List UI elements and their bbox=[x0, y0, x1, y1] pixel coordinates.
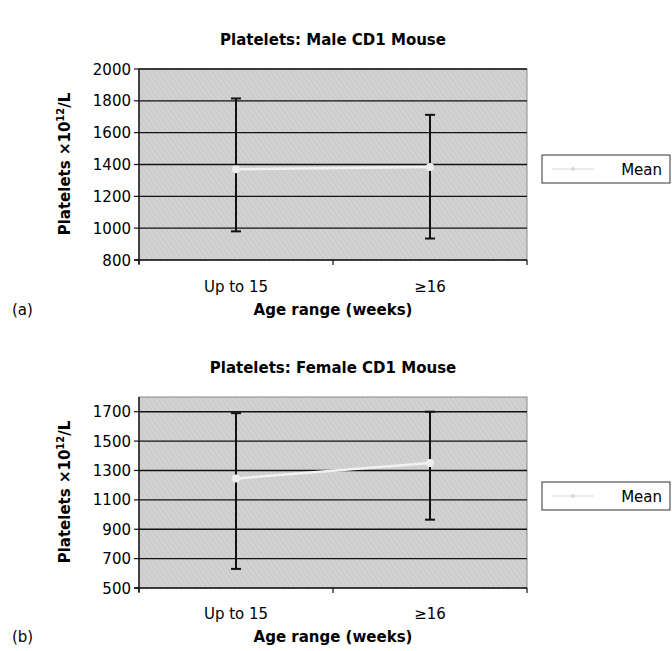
y-axis-title-exponent: 12 bbox=[55, 436, 66, 450]
y-tick-label: 1200 bbox=[93, 188, 131, 206]
legend-label: Mean bbox=[621, 488, 662, 506]
chart-panel-male: Platelets: Male CD1 Mouse800100012001400… bbox=[12, 31, 670, 319]
x-tick-label: ≥16 bbox=[414, 605, 446, 623]
y-axis-title-unit: /L bbox=[56, 420, 74, 435]
panel-label: (b) bbox=[12, 628, 33, 646]
x-axis-title: Age range (weeks) bbox=[254, 628, 413, 646]
mean-marker bbox=[426, 459, 434, 467]
y-tick-label: 1500 bbox=[93, 433, 131, 451]
mean-marker bbox=[426, 163, 434, 171]
y-tick-label: 500 bbox=[102, 580, 131, 598]
mean-marker bbox=[232, 475, 240, 483]
y-tick-label: 1100 bbox=[93, 491, 131, 509]
y-axis-title: Platelets ×1012/L bbox=[55, 92, 74, 235]
y-tick-label: 900 bbox=[102, 521, 131, 539]
y-tick-label: 800 bbox=[102, 252, 131, 270]
y-axis-title-exponent: 12 bbox=[55, 108, 66, 122]
chart-title: Platelets: Female CD1 Mouse bbox=[210, 359, 456, 377]
chart-panel-female: Platelets: Female CD1 Mouse5007009001100… bbox=[12, 359, 670, 646]
x-tick-label: Up to 15 bbox=[204, 278, 268, 296]
y-axis-title-main: Platelets ×10 bbox=[56, 450, 74, 564]
x-axis-title: Age range (weeks) bbox=[254, 301, 413, 319]
legend-marker-swatch bbox=[571, 167, 575, 171]
x-tick-label: Up to 15 bbox=[204, 605, 268, 623]
y-tick-label: 1000 bbox=[93, 220, 131, 238]
y-axis-title: Platelets ×1012/L bbox=[55, 420, 74, 563]
legend-label: Mean bbox=[621, 161, 662, 179]
y-tick-label: 700 bbox=[102, 550, 131, 568]
y-tick-label: 1400 bbox=[93, 156, 131, 174]
x-tick-label: ≥16 bbox=[414, 278, 446, 296]
y-tick-label: 2000 bbox=[93, 61, 131, 79]
y-tick-label: 1700 bbox=[93, 403, 131, 421]
y-tick-label: 1600 bbox=[93, 124, 131, 142]
y-tick-label: 1800 bbox=[93, 92, 131, 110]
chart-title: Platelets: Male CD1 Mouse bbox=[220, 31, 446, 49]
figure: Platelets: Male CD1 Mouse800100012001400… bbox=[0, 0, 672, 651]
y-tick-label: 1300 bbox=[93, 462, 131, 480]
y-axis-title-main: Platelets ×10 bbox=[56, 122, 74, 236]
y-axis-title-unit: /L bbox=[56, 92, 74, 107]
mean-marker bbox=[232, 165, 240, 173]
legend-marker-swatch bbox=[571, 494, 575, 498]
panel-label: (a) bbox=[12, 301, 33, 319]
plot-area bbox=[139, 397, 527, 588]
